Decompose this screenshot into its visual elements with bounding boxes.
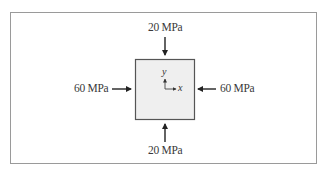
y-axis-label: y (162, 66, 166, 77)
top-stress-label: 20 MPa (148, 21, 182, 33)
left-stress-label: 60 MPa (74, 82, 108, 94)
bottom-stress-label: 20 MPa (148, 144, 182, 156)
x-axis-label: x (178, 82, 182, 93)
right-stress-label: 60 MPa (220, 82, 254, 94)
